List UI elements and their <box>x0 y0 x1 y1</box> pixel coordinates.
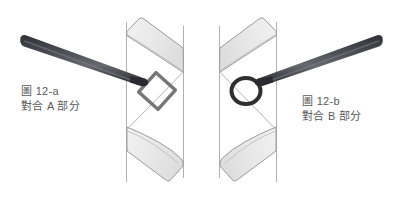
figure-root: 圖 12-a 對合 A 部分 <box>0 0 403 198</box>
pencil-highlight <box>266 41 379 82</box>
caption-a-line1: 圖 12-a <box>21 84 80 99</box>
ribbon-lower-fold <box>220 127 276 181</box>
pencil-highlight <box>25 41 138 82</box>
caption-a: 圖 12-a 對合 A 部分 <box>21 84 80 114</box>
diamond-marker <box>139 73 176 110</box>
ribbon-lower-fold <box>127 127 183 181</box>
pencil-tip <box>130 77 149 87</box>
diagram-panel-a: 圖 12-a 對合 A 部分 <box>0 0 201 198</box>
caption-b-line1: 圖 12-b <box>302 94 362 109</box>
ribbon-upper-fold <box>220 18 277 73</box>
ribbon-upper-fold <box>127 18 184 73</box>
caption-b: 圖 12-b 對合 B 部分 <box>302 94 362 124</box>
caption-a-line2: 對合 A 部分 <box>21 99 80 114</box>
pencil-tip <box>255 77 274 87</box>
diagram-panel-b: 圖 12-b 對合 B 部分 <box>202 0 403 198</box>
caption-b-line2: 對合 B 部分 <box>302 109 362 124</box>
